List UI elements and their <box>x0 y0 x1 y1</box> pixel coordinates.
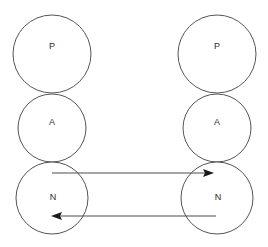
node-label-right-p: P <box>214 41 220 51</box>
diagram-canvas: P A N P A N <box>0 0 268 247</box>
node-label-right-n: N <box>215 192 222 202</box>
node-right-presentation[interactable]: P <box>178 15 256 93</box>
node-label-left-a: A <box>49 117 55 127</box>
node-right-application[interactable]: A <box>183 94 251 162</box>
circle-left-p[interactable] <box>13 15 91 93</box>
protocol-stack-diagram: P A N P A N <box>0 0 268 247</box>
node-label-left-n: N <box>50 192 57 202</box>
right-protocol-stack: P A N <box>178 15 256 234</box>
node-left-application[interactable]: A <box>18 94 86 162</box>
node-label-right-a: A <box>214 117 220 127</box>
node-label-left-p: P <box>49 41 55 51</box>
circle-left-a[interactable] <box>18 94 86 162</box>
circle-right-a[interactable] <box>183 94 251 162</box>
left-protocol-stack: P A N <box>13 15 91 234</box>
circle-right-p[interactable] <box>178 15 256 93</box>
node-left-presentation[interactable]: P <box>13 15 91 93</box>
